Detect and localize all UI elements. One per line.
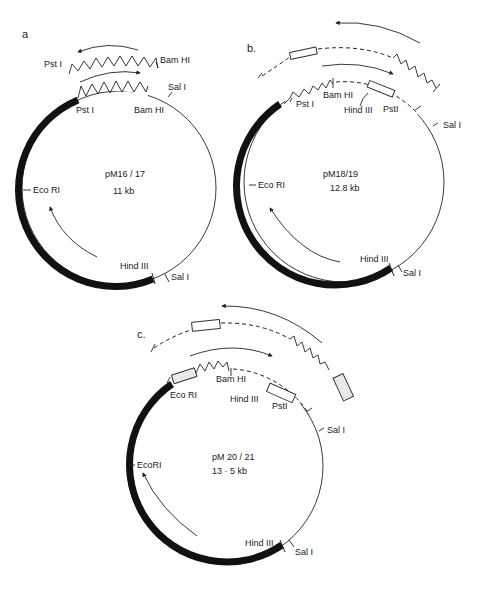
- site-label: Sal I: [168, 82, 186, 92]
- plasmid-size: 13 · 5 kb: [212, 466, 247, 476]
- site-label: Bam HI: [160, 55, 190, 65]
- arrow-leftward-b: [336, 23, 420, 43]
- site-label: Eco RI: [258, 180, 285, 190]
- plasmid-name: pM16 / 17: [105, 169, 145, 179]
- site-label: Hind III: [230, 394, 259, 404]
- site-label: Eco RI: [170, 390, 197, 400]
- insert-box-b: [367, 80, 395, 97]
- arrow-leftward-c: [222, 306, 322, 343]
- vector-backbone-c: [130, 384, 282, 562]
- plasmid-map-figure: a Pst I Bam HI Pst I Bam HI Sal I Eco RI…: [0, 0, 487, 591]
- site-label: Hind III: [120, 261, 149, 271]
- panel-c: c.: [127, 306, 354, 564]
- site-label: EcoRI: [137, 460, 162, 470]
- plasmid-name: pM18/19: [323, 169, 358, 179]
- site-label: PstI: [272, 401, 288, 411]
- panel-a: a Pst I Bam HI Pst I Bam HI Sal I Eco RI…: [19, 28, 216, 287]
- insert-zigzag-c-upper: [290, 336, 329, 370]
- site-label: Eco RI: [33, 185, 60, 195]
- insert-box-b-upper: [289, 47, 317, 59]
- stippled-box-c-upper: [333, 374, 354, 401]
- panel-a-label: a: [22, 28, 29, 40]
- panel-c-label: c.: [137, 328, 146, 340]
- site-label: Pst I: [296, 99, 314, 109]
- plasmid-size: 11 kb: [113, 186, 134, 196]
- site-label: Sal I: [295, 547, 313, 557]
- site-label: Sal I: [403, 268, 421, 278]
- arrow-transcript-b: [270, 208, 340, 262]
- stippled-box-c: [171, 368, 197, 384]
- plasmid-size: 12.8 kb: [330, 183, 360, 193]
- panel-b-label: b.: [247, 42, 256, 54]
- site-label: Hind III: [360, 254, 389, 264]
- panel-b: b. Bam: [236, 23, 461, 285]
- insert-zigzag-a-upper: [69, 56, 158, 74]
- site-label: Hind III: [344, 105, 373, 115]
- site-label: Sal I: [327, 425, 345, 435]
- site-label: Sal I: [171, 272, 189, 282]
- arrow-rightward-b: [322, 64, 393, 74]
- arrow-transcript-a: [50, 207, 97, 257]
- site-label: Pst I: [44, 59, 62, 69]
- arrow-rightward-c: [190, 348, 272, 356]
- site-label: Bam HI: [216, 374, 246, 384]
- arrow-leftward-a: [78, 45, 138, 52]
- site-label: Pst I: [76, 105, 94, 115]
- site-label: Sal I: [443, 120, 461, 130]
- insert-zigzag-b-upper: [393, 54, 436, 88]
- site-label: PstI: [383, 104, 399, 114]
- arrow-rightward-a: [80, 72, 140, 82]
- site-label: Hind III: [245, 538, 274, 548]
- site-label: Bam HI: [134, 105, 164, 115]
- insert-box-c-upper: [192, 319, 221, 331]
- site-label: Bam HI: [323, 90, 353, 100]
- plasmid-name: pM 20 / 21: [212, 452, 255, 462]
